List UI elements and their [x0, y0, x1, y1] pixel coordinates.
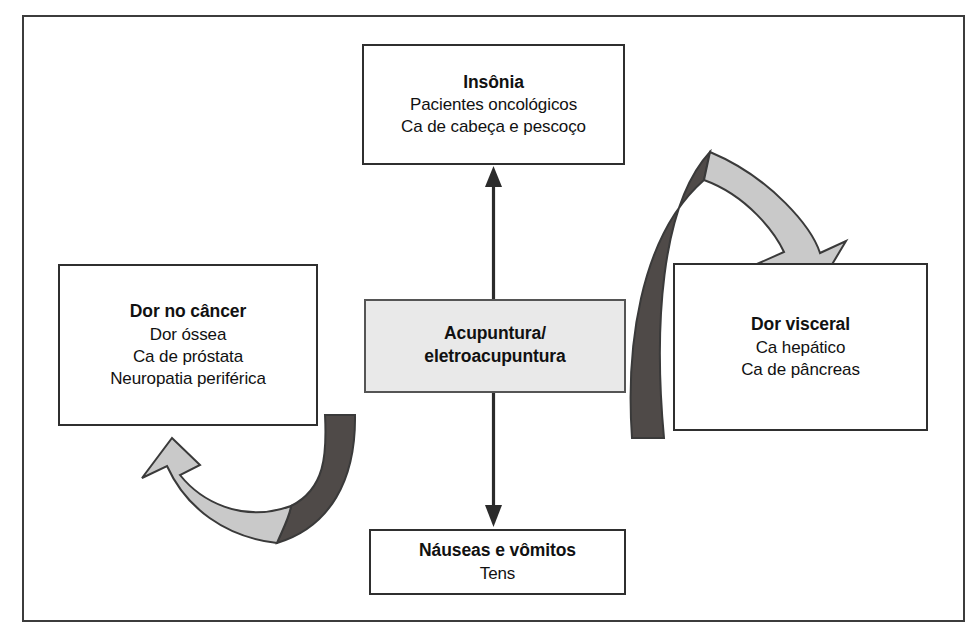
node-nausea-vomiting-title: Náuseas e vômitos: [419, 539, 576, 562]
node-acupuncture[interactable]: Acupuntura/ eletroacupuntura: [364, 299, 626, 393]
node-visceral-pain[interactable]: Dor visceral Ca hepático Ca de pâncreas: [673, 263, 928, 431]
node-visceral-pain-line-1: Ca hepático: [756, 337, 846, 359]
node-visceral-pain-line-2: Ca de pâncreas: [741, 359, 860, 381]
node-acupuncture-title-line-1: Acupuntura/: [444, 323, 546, 345]
node-nausea-vomiting-line-1: Tens: [480, 563, 516, 585]
node-insomnia-line-2: Ca de cabeça e pescoço: [401, 116, 586, 138]
node-cancer-pain[interactable]: Dor no câncer Dor óssea Ca de próstata N…: [58, 264, 318, 426]
node-cancer-pain-line-2: Ca de próstata: [133, 346, 243, 368]
node-insomnia-title: Insônia: [463, 71, 524, 94]
node-acupuncture-title-line-2: eletroacupuntura: [424, 346, 565, 368]
node-visceral-pain-title: Dor visceral: [751, 313, 850, 336]
node-cancer-pain-line-3: Neuropatia periférica: [110, 368, 266, 390]
node-cancer-pain-line-1: Dor óssea: [150, 324, 227, 346]
node-nausea-vomiting[interactable]: Náuseas e vômitos Tens: [369, 529, 626, 595]
node-insomnia[interactable]: Insônia Pacientes oncológicos Ca de cabe…: [362, 44, 625, 165]
diagram-canvas: Insônia Pacientes oncológicos Ca de cabe…: [0, 0, 977, 639]
node-cancer-pain-title: Dor no câncer: [130, 300, 246, 323]
node-insomnia-line-1: Pacientes oncológicos: [410, 94, 577, 116]
